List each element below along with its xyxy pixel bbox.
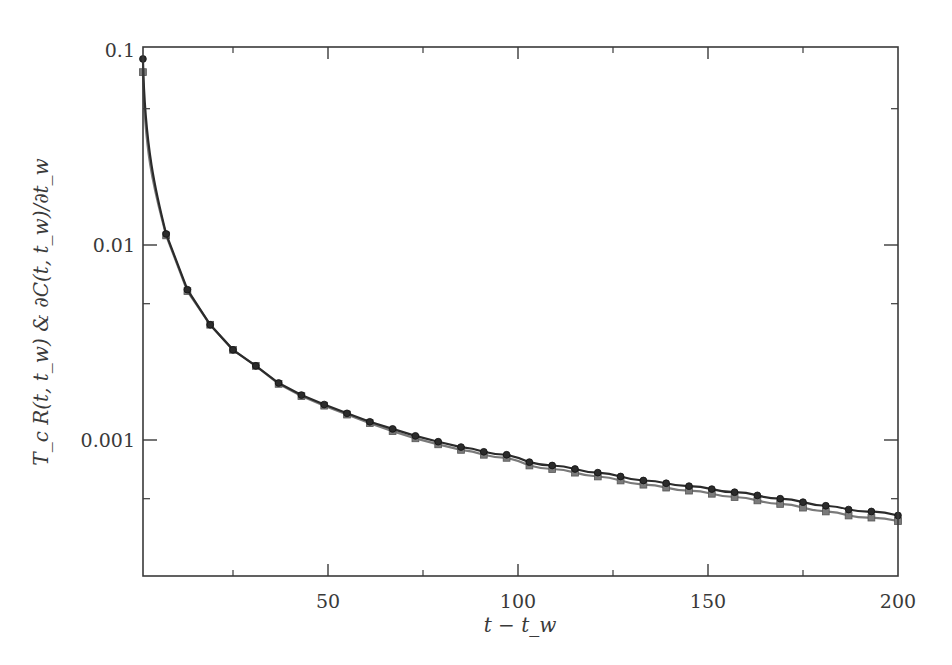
circle-marker <box>435 438 442 445</box>
circle-marker <box>366 418 373 425</box>
plot-frame <box>143 47 898 576</box>
circle-marker <box>503 451 510 458</box>
axis-ticks: 501001502000.10.010.001 <box>81 39 917 612</box>
x-tick-label: 100 <box>500 590 536 612</box>
circle-marker <box>412 432 419 439</box>
chart: 501001502000.10.010.001 t − t_w T_c R(t,… <box>0 0 952 665</box>
circle-marker <box>640 477 647 484</box>
circle-marker <box>594 469 601 476</box>
x-axis-label: t − t_w <box>484 613 557 637</box>
series-layer <box>140 56 902 525</box>
circle-marker <box>298 392 305 399</box>
series-response <box>140 56 902 519</box>
circle-marker <box>686 483 693 490</box>
y-axis-label: T_c R(t, t_w) & ∂C(t, t_w)/∂t_w <box>29 158 53 465</box>
circle-marker <box>572 466 579 473</box>
circle-marker <box>163 231 170 238</box>
circle-marker <box>708 486 715 493</box>
y-tick-label: 0.1 <box>105 39 135 61</box>
circle-marker <box>731 489 738 496</box>
series-derivative <box>140 69 902 525</box>
circle-marker <box>184 286 191 293</box>
series-line <box>143 59 898 516</box>
circle-marker <box>800 499 807 506</box>
circle-marker <box>754 492 761 499</box>
circle-marker <box>252 362 259 369</box>
circle-marker <box>868 508 875 515</box>
circle-marker <box>344 410 351 417</box>
circle-marker <box>526 459 533 466</box>
x-tick-label: 200 <box>880 590 916 612</box>
circle-marker <box>458 444 465 451</box>
circle-marker <box>207 321 214 328</box>
circle-marker <box>389 426 396 433</box>
x-tick-label: 50 <box>316 590 340 612</box>
series-line <box>143 72 898 521</box>
circle-marker <box>480 448 487 455</box>
circle-marker <box>663 480 670 487</box>
circle-marker <box>617 473 624 480</box>
circle-marker <box>230 346 237 353</box>
circle-marker <box>777 495 784 502</box>
x-tick-label: 150 <box>690 590 726 612</box>
circle-marker <box>321 401 328 408</box>
circle-marker <box>822 502 829 509</box>
y-tick-label: 0.01 <box>93 234 135 256</box>
circle-marker <box>549 462 556 469</box>
circle-marker <box>845 506 852 513</box>
circle-marker <box>275 380 282 387</box>
y-tick-label: 0.001 <box>81 429 135 451</box>
